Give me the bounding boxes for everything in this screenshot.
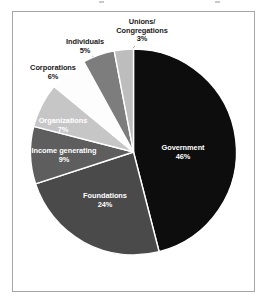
slice-label-foundations: Foundations 24% <box>72 192 138 209</box>
slice-label-government-value: 46% <box>150 153 216 162</box>
slice-label-unions-congregations: Unions/ Congregations 3% <box>110 18 174 44</box>
slice-label-income-generating-text: Income generating <box>32 146 97 155</box>
slice-label-foundations-value: 24% <box>72 201 138 210</box>
slice-label-corporations: Corporations 6% <box>18 64 88 81</box>
slice-label-unions-line1: Unions/ <box>129 17 156 26</box>
figure-canvas: Government 46% Foundations 24% Income ge… <box>0 0 270 304</box>
slice-label-income-generating-value: 9% <box>20 156 108 165</box>
slice-label-unions-value: 3% <box>110 35 174 44</box>
slice-label-individuals-text: Individuals <box>66 37 104 46</box>
slice-label-foundations-text: Foundations <box>83 191 127 200</box>
slice-label-government: Government 46% <box>150 144 216 161</box>
slice-label-individuals-value: 5% <box>54 47 116 56</box>
slice-label-income-generating: Income generating 9% <box>20 147 108 164</box>
slice-label-organizations-value: 7% <box>26 126 100 135</box>
slice-label-individuals: Individuals 5% <box>54 38 116 55</box>
slice-label-corporations-text: Corporations <box>30 63 76 72</box>
pie-chart: Government 46% Foundations 24% Income ge… <box>0 0 270 304</box>
slice-label-organizations: Organizations 7% <box>26 117 100 134</box>
slice-label-organizations-text: Organizations <box>39 116 88 125</box>
slice-label-corporations-value: 6% <box>18 73 88 82</box>
slice-label-government-text: Government <box>161 143 204 152</box>
